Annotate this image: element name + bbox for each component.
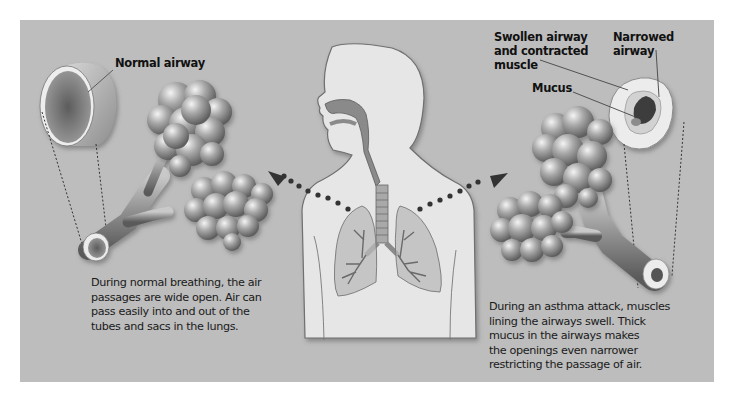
body-silhouette	[302, 44, 476, 338]
normal-bronchiole	[83, 155, 168, 261]
mucus-label: Mucus	[532, 81, 572, 95]
normal-caption: During normal breathing, the air passage…	[91, 276, 261, 334]
normal-airway-cross-section	[40, 63, 116, 146]
normal-caption-line: tubes and sacs in the lungs.	[91, 320, 261, 335]
swollen-label-line-2: and contracted	[494, 44, 588, 58]
narrowed-airway-label: Narrowed airway	[613, 30, 674, 58]
alveoli-cluster-lower-right	[490, 191, 573, 262]
swollen-label-line-3: muscle	[494, 58, 588, 72]
narrowed-label-line-1: Narrowed	[613, 30, 674, 44]
normal-caption-line: pass easily into and out of the	[91, 305, 261, 320]
asthma-caption-line: lining the airways swell. Thick	[489, 315, 670, 330]
swollen-airway-label: Swollen airway and contracted muscle	[494, 30, 588, 72]
asthma-caption-line: mucus in the airways makes	[489, 329, 670, 344]
narrowed-airway-cross-section	[609, 78, 673, 149]
swollen-bronchiole	[566, 196, 669, 289]
asthma-caption: During an asthma attack, muscles lining …	[489, 300, 670, 373]
swollen-label-line-1: Swollen airway	[494, 30, 588, 44]
alveoli-cluster-lower-left	[184, 171, 273, 251]
narrowed-label-line-2: airway	[613, 44, 674, 58]
asthma-caption-line: the openings even narrower	[489, 344, 670, 359]
normal-caption-line: passages are wide open. Air can	[91, 291, 261, 306]
normal-airway-label: Normal airway	[115, 56, 205, 70]
human-figure	[302, 44, 476, 338]
normal-caption-line: During normal breathing, the air	[91, 276, 261, 291]
asthma-caption-line: During an asthma attack, muscles	[489, 300, 670, 315]
asthma-caption-line: restricting the passage of air.	[489, 358, 670, 373]
